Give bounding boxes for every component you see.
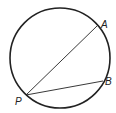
chord-pb — [26, 81, 103, 95]
label-a: A — [100, 19, 108, 30]
label-p: P — [15, 96, 22, 107]
label-b: B — [105, 76, 112, 87]
circle-diagram: A B P — [0, 0, 116, 113]
chord-pa — [26, 26, 97, 95]
circle — [10, 8, 110, 108]
